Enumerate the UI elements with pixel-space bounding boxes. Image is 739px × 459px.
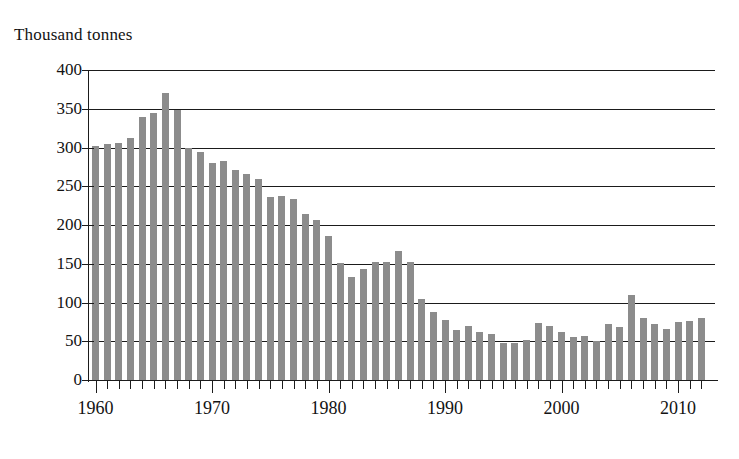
bar <box>442 320 449 380</box>
x-axis-minor-tick <box>282 381 283 389</box>
x-axis-minor-tick <box>189 381 190 389</box>
x-axis-minor-tick <box>270 381 271 389</box>
bar <box>220 161 227 380</box>
x-axis-line <box>88 380 718 381</box>
bar <box>348 277 355 380</box>
bar <box>511 343 518 380</box>
x-axis-minor-tick <box>398 381 399 389</box>
x-axis-minor-tick <box>130 381 131 389</box>
x-axis-minor-tick <box>433 381 434 389</box>
x-axis-minor-tick <box>317 381 318 389</box>
bar <box>290 199 297 380</box>
x-axis-minor-tick <box>538 381 539 389</box>
x-axis-minor-tick <box>177 381 178 389</box>
x-axis-major-tick <box>562 381 563 393</box>
bar <box>267 197 274 380</box>
bar <box>570 337 577 380</box>
x-axis-minor-tick <box>154 381 155 389</box>
x-axis-minor-tick <box>585 381 586 389</box>
bar <box>476 332 483 380</box>
bar <box>453 330 460 380</box>
bar <box>313 220 320 380</box>
x-axis-major-tick <box>212 381 213 393</box>
y-axis-tick-mark <box>82 70 94 71</box>
x-axis-minor-tick <box>620 381 621 389</box>
x-axis-minor-tick <box>142 381 143 389</box>
bar <box>209 163 216 380</box>
bar <box>465 326 472 380</box>
y-axis-tick-mark <box>82 303 94 304</box>
bar <box>162 93 169 380</box>
bar <box>546 326 553 380</box>
x-axis-minor-tick <box>375 381 376 389</box>
x-axis-minor-tick <box>492 381 493 389</box>
bar <box>127 138 134 380</box>
y-axis-labels: 050100150200250300350400 <box>20 0 82 459</box>
bar <box>675 322 682 380</box>
bar <box>104 144 111 380</box>
x-axis-minor-tick <box>631 381 632 389</box>
bar <box>535 323 542 380</box>
x-axis-minor-tick <box>410 381 411 389</box>
bar <box>581 336 588 380</box>
bar <box>139 117 146 381</box>
y-axis-tick-mark <box>82 341 94 342</box>
x-axis-major-tick <box>445 381 446 393</box>
bar <box>232 170 239 380</box>
x-axis-major-tick <box>329 381 330 393</box>
y-axis-tick-label: 50 <box>26 332 82 349</box>
x-axis-minor-tick <box>666 381 667 389</box>
bar <box>255 179 262 381</box>
gridline-350 <box>88 109 715 110</box>
x-axis-minor-tick <box>596 381 597 389</box>
bar <box>150 113 157 380</box>
y-axis-tick-mark <box>82 109 94 110</box>
gridline-400 <box>88 70 715 71</box>
bar <box>616 327 623 380</box>
x-axis-minor-tick <box>468 381 469 389</box>
bar <box>418 299 425 380</box>
y-axis-tick-label: 200 <box>26 216 82 233</box>
bar <box>500 343 507 380</box>
bar <box>593 341 600 380</box>
bar <box>407 262 414 380</box>
x-axis-minor-tick <box>515 381 516 389</box>
x-axis-minor-tick <box>165 381 166 389</box>
bar <box>383 262 390 380</box>
bar <box>185 148 192 381</box>
x-axis-minor-tick <box>352 381 353 389</box>
x-axis-tick-label: 1960 <box>78 398 114 418</box>
x-axis-minor-tick <box>608 381 609 389</box>
bar <box>605 324 612 380</box>
x-axis-minor-tick <box>655 381 656 389</box>
plot-area <box>88 70 715 380</box>
x-axis-tick-label: 1990 <box>427 398 463 418</box>
bar <box>488 334 495 381</box>
x-axis-major-tick <box>678 381 679 393</box>
bar <box>337 263 344 380</box>
bar <box>395 251 402 380</box>
bar <box>651 324 658 380</box>
x-axis-minor-tick <box>247 381 248 389</box>
bar <box>360 269 367 380</box>
x-axis-minor-tick <box>224 381 225 389</box>
bar <box>698 318 705 380</box>
x-axis-minor-tick <box>305 381 306 389</box>
bar <box>174 110 181 380</box>
x-axis-minor-tick <box>200 381 201 389</box>
x-axis-tick-label: 1980 <box>311 398 347 418</box>
y-axis-tick-label: 350 <box>26 100 82 117</box>
bar <box>325 236 332 380</box>
bar <box>197 152 204 380</box>
gridline-200 <box>88 225 715 226</box>
x-axis-minor-tick <box>701 381 702 389</box>
x-axis-tick-label: 2000 <box>544 398 580 418</box>
y-axis-tick-mark <box>82 186 94 187</box>
bar-chart: Thousand tonnes 050100150200250300350400… <box>0 0 739 459</box>
x-axis-major-tick <box>96 381 97 393</box>
y-axis-tick-mark <box>82 380 94 381</box>
x-axis-minor-tick <box>550 381 551 389</box>
x-axis-minor-tick <box>573 381 574 389</box>
bar <box>278 196 285 380</box>
gridline-250 <box>88 186 715 187</box>
